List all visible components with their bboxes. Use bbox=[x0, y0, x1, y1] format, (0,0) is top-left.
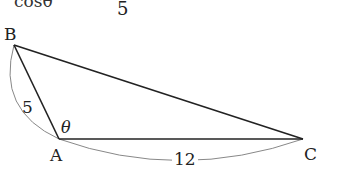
side-ab-length: 5 bbox=[22, 97, 33, 117]
vertex-c-label: C bbox=[304, 144, 317, 164]
triangle-diagram: B A C 5 12 θ bbox=[0, 0, 345, 169]
side-bc bbox=[14, 45, 303, 139]
vertex-b-label: B bbox=[4, 24, 17, 44]
side-ac-length: 12 bbox=[174, 149, 196, 169]
vertex-a-label: A bbox=[49, 145, 63, 165]
angle-theta-label: θ bbox=[61, 118, 71, 137]
